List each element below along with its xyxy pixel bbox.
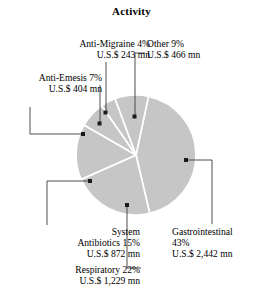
slice-label-gastrointestinal: Gastrointestinal 43% U.S.$ 2,442 mn: [172, 226, 262, 260]
slice-label-system-antibiotics-line3: U.S.$ 872 mn: [14, 248, 140, 259]
slice-label-anti-migraine-line2: U.S.$ 243 mn: [32, 49, 150, 60]
slice-label-gastrointestinal-line2: 43%: [172, 237, 262, 248]
leader-dot-anti-emesis: [98, 122, 102, 126]
slice-label-other: Other 9% U.S.$ 466 mn: [147, 38, 257, 60]
leader-dot-respiratory: [125, 203, 129, 207]
slice-label-other-line2: U.S.$ 466 mn: [147, 49, 257, 60]
leader-line-antibiotics: [47, 181, 90, 225]
pie-chart-figure: Activity: [0, 0, 263, 302]
slice-label-respiratory-line1: Respiratory 22%: [22, 264, 140, 275]
leader-dot-slice-left-upper: [81, 132, 85, 136]
slice-label-anti-emesis: Anti-Emesis 7% U.S.$ 404 mn: [6, 72, 102, 94]
leader-dot-gastrointestinal: [184, 158, 188, 162]
leader-dot-other: [133, 115, 137, 119]
slice-label-gastrointestinal-line3: U.S.$ 2,442 mn: [172, 248, 262, 259]
slice-label-gastrointestinal-line1: Gastrointestinal: [172, 226, 262, 237]
slice-label-anti-migraine-line1: Anti-Migraine 4%: [32, 38, 150, 49]
slice-label-system-antibiotics: System Antibiotics 15% U.S.$ 872 mn: [14, 226, 140, 260]
leader-dot-antibiotics: [88, 179, 92, 183]
slice-label-anti-emesis-line2: U.S.$ 404 mn: [6, 83, 102, 94]
slice-label-system-antibiotics-line1: System: [14, 226, 140, 237]
slice-label-anti-emesis-line1: Anti-Emesis 7%: [6, 72, 102, 83]
leader-line-slice-left-upper: [30, 107, 83, 134]
pie-slices: [76, 95, 196, 215]
leader-dot-anti-migraine: [104, 111, 108, 115]
slice-label-other-line1: Other 9%: [147, 38, 257, 49]
slice-label-respiratory: Respiratory 22% U.S.$ 1,229 mn: [22, 264, 140, 286]
slice-label-system-antibiotics-line2: Antibiotics 15%: [14, 237, 140, 248]
slice-label-respiratory-line2: U.S.$ 1,229 mn: [22, 275, 140, 286]
slice-label-anti-migraine: Anti-Migraine 4% U.S.$ 243 mn: [32, 38, 150, 60]
